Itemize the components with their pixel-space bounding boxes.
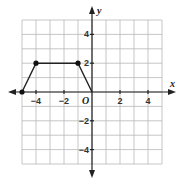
y-axis-arrow-down-icon xyxy=(89,170,95,178)
data-point xyxy=(75,61,80,66)
x-tick-label: −4 xyxy=(31,96,41,106)
y-tick-label: −4 xyxy=(79,145,89,155)
y-axis-label: y xyxy=(96,5,102,16)
y-axis-arrow-up-icon xyxy=(89,6,95,14)
y-tick-label: 4 xyxy=(84,29,89,39)
x-tick-label: −2 xyxy=(59,96,69,106)
data-point xyxy=(19,89,24,94)
y-tick-label: −2 xyxy=(79,116,89,126)
origin-label: O xyxy=(82,95,89,106)
y-tick-label: 2 xyxy=(84,58,89,68)
data-point xyxy=(33,61,38,66)
x-axis-arrow-left-icon xyxy=(8,89,16,95)
coordinate-plane: −4−22442−2−4 x y O xyxy=(0,0,177,178)
x-axis-arrow-right-icon xyxy=(168,89,176,95)
x-axis-label: x xyxy=(169,78,175,89)
x-tick-label: 4 xyxy=(145,96,150,106)
x-tick-label: 2 xyxy=(117,96,122,106)
